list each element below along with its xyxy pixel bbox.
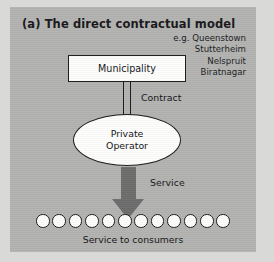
consumer-circle	[52, 214, 66, 228]
consumer-circle	[36, 214, 50, 228]
consumer-circle	[69, 214, 83, 228]
edge-label-contract: Contract	[141, 92, 181, 103]
contract-connector-double-line	[122, 81, 133, 116]
example-location-item: e.g. Queenstown	[173, 33, 246, 44]
consumer-circle	[118, 214, 132, 228]
connector-line-left	[123, 81, 125, 116]
diagram-panel: (a) The direct contractual model e.g. Qu…	[10, 7, 256, 252]
consumer-circles-row	[36, 214, 230, 228]
consumer-circle	[134, 214, 148, 228]
arrow-shaft	[121, 167, 136, 201]
node-private-operator-label-line1: Private	[111, 128, 144, 141]
consumer-circle	[85, 214, 99, 228]
consumer-circle	[167, 214, 181, 228]
consumer-circle	[102, 214, 116, 228]
connector-line-right	[130, 81, 132, 116]
figure-container: (a) The direct contractual model e.g. Qu…	[0, 0, 274, 262]
node-private-operator-label-line2: Operator	[106, 140, 148, 153]
consumer-circle	[200, 214, 214, 228]
node-municipality-label: Municipality	[98, 63, 156, 74]
consumer-circle	[151, 214, 165, 228]
node-private-operator: Private Operator	[73, 114, 181, 166]
figure-title: (a) The direct contractual model	[22, 17, 235, 31]
node-municipality: Municipality	[68, 55, 186, 82]
service-arrow-down-icon	[112, 167, 144, 219]
consumer-circle	[216, 214, 230, 228]
edge-label-service: Service	[150, 177, 185, 188]
consumer-circle	[184, 214, 198, 228]
consumers-caption: Service to consumers	[10, 234, 256, 245]
